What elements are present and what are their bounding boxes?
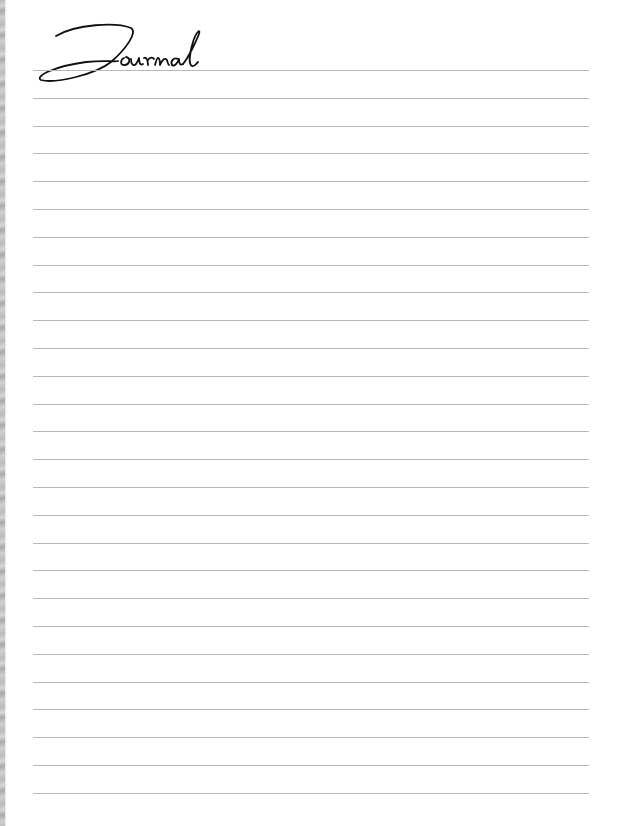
ruled-line bbox=[33, 431, 589, 432]
ruled-line bbox=[33, 98, 589, 99]
page-title: Journal bbox=[36, 14, 206, 84]
ruled-line bbox=[33, 153, 589, 154]
ruled-line bbox=[33, 598, 589, 599]
ruled-line bbox=[33, 320, 589, 321]
ruled-line bbox=[33, 709, 589, 710]
ruled-line bbox=[33, 459, 589, 460]
ruled-line bbox=[33, 265, 589, 266]
ruled-line bbox=[33, 292, 589, 293]
ruled-line bbox=[33, 209, 589, 210]
ruled-line bbox=[33, 654, 589, 655]
ruled-line bbox=[33, 765, 589, 766]
ruled-line bbox=[33, 126, 589, 127]
ruled-line bbox=[33, 793, 589, 794]
ruled-line bbox=[33, 570, 589, 571]
ruled-line bbox=[33, 626, 589, 627]
journal-script-title bbox=[36, 14, 206, 84]
ruled-line bbox=[33, 404, 589, 405]
page-edge-shadow bbox=[5, 0, 7, 826]
ruled-line bbox=[33, 181, 589, 182]
ruled-line bbox=[33, 737, 589, 738]
ruled-line bbox=[33, 70, 589, 71]
ruled-line bbox=[33, 348, 589, 349]
ruled-line bbox=[33, 515, 589, 516]
ruled-line bbox=[33, 376, 589, 377]
ruled-line bbox=[33, 237, 589, 238]
ruled-line bbox=[33, 543, 589, 544]
ruled-line bbox=[33, 682, 589, 683]
ruled-line bbox=[33, 487, 589, 488]
